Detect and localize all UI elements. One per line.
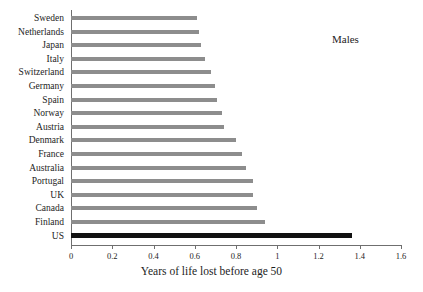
bar-row-label: Portugal xyxy=(0,174,64,188)
bar-row-label: UK xyxy=(0,188,64,202)
x-tick-mark xyxy=(112,245,113,249)
bar xyxy=(71,30,199,34)
bar-row: Austria xyxy=(0,120,423,134)
bar xyxy=(71,125,224,129)
x-tick-label: 1.2 xyxy=(313,251,324,262)
bar-row-label: Japan xyxy=(0,38,64,52)
bar-row: US xyxy=(0,229,423,243)
bar-row: UK xyxy=(0,188,423,202)
bar-row-label: Australia xyxy=(0,161,64,175)
bar xyxy=(71,166,246,170)
x-tick-label: 1 xyxy=(275,251,279,262)
bar-row-label: Germany xyxy=(0,79,64,93)
x-tick-label: 1.6 xyxy=(396,251,407,262)
plot-area: SwedenNetherlandsJapanItalySwitzerlandGe… xyxy=(0,0,423,292)
bar-row: Canada xyxy=(0,201,423,215)
bar xyxy=(71,138,236,142)
x-tick-label: 0.2 xyxy=(107,251,118,262)
bar xyxy=(71,57,205,61)
bar-row-label: Austria xyxy=(0,120,64,134)
bar-row: Australia xyxy=(0,161,423,175)
bar-row-label: France xyxy=(0,147,64,161)
bar-row-label: Denmark xyxy=(0,133,64,147)
bar-row: Denmark xyxy=(0,133,423,147)
x-tick-mark xyxy=(360,245,361,249)
bar-row: Spain xyxy=(0,93,423,107)
bar xyxy=(71,206,257,210)
bar xyxy=(71,16,197,20)
bar xyxy=(71,152,242,156)
x-tick-label: 0.6 xyxy=(189,251,200,262)
bar-row-label: Switzerland xyxy=(0,65,64,79)
bar xyxy=(71,98,217,102)
bar-row: Netherlands xyxy=(0,25,423,39)
bar-row: Sweden xyxy=(0,11,423,25)
x-tick-label: 0.8 xyxy=(231,251,242,262)
bar xyxy=(71,193,253,197)
x-tick-mark xyxy=(154,245,155,249)
bar xyxy=(71,43,201,47)
bar-row: Finland xyxy=(0,215,423,229)
x-tick-label: 1.4 xyxy=(354,251,365,262)
bar-row: Japan xyxy=(0,38,423,52)
bar-row: Norway xyxy=(0,106,423,120)
bar-row-label: Italy xyxy=(0,52,64,66)
bar xyxy=(71,111,222,115)
bar xyxy=(71,220,265,224)
bar-row-label: US xyxy=(0,229,64,243)
bar-highlight xyxy=(71,233,352,238)
bar-row: Switzerland xyxy=(0,65,423,79)
bar-row: Italy xyxy=(0,52,423,66)
bar-row-label: Norway xyxy=(0,106,64,120)
bar-row-label: Finland xyxy=(0,215,64,229)
x-tick-mark xyxy=(195,245,196,249)
bar-row-label: Spain xyxy=(0,93,64,107)
x-axis-title: Years of life lost before age 50 xyxy=(0,265,423,277)
x-tick-mark xyxy=(277,245,278,249)
x-tick-mark xyxy=(236,245,237,249)
bar xyxy=(71,179,253,183)
bar-row: France xyxy=(0,147,423,161)
bar-row-label: Canada xyxy=(0,201,64,215)
x-tick-mark xyxy=(319,245,320,249)
x-tick-label: 0.4 xyxy=(148,251,159,262)
x-tick-mark xyxy=(71,245,72,249)
series-title: Males xyxy=(332,33,359,45)
x-tick-label: 0 xyxy=(69,251,73,262)
bar-row: Portugal xyxy=(0,174,423,188)
bar xyxy=(71,84,215,88)
chart-root: SwedenNetherlandsJapanItalySwitzerlandGe… xyxy=(0,0,423,292)
bar xyxy=(71,70,211,74)
bar-row-label: Sweden xyxy=(0,11,64,25)
bar-row: Germany xyxy=(0,79,423,93)
bar-row-label: Netherlands xyxy=(0,25,64,39)
x-tick-mark xyxy=(401,245,402,249)
